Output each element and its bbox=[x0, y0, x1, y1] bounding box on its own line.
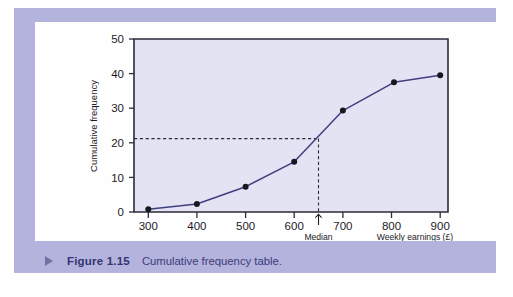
x-axis-tick-labels: 300 400 500 600 700 800 900 bbox=[139, 220, 450, 232]
triangle-right-icon bbox=[45, 256, 53, 266]
plot-area-background bbox=[134, 39, 448, 212]
data-point bbox=[243, 184, 249, 190]
x-tick-label: 700 bbox=[333, 220, 352, 232]
data-point bbox=[145, 206, 151, 212]
data-point bbox=[391, 79, 397, 85]
data-point bbox=[291, 159, 297, 165]
x-tick-label: 300 bbox=[139, 220, 158, 232]
y-tick-label: 50 bbox=[111, 33, 124, 45]
figure-caption-text: Cumulative frequency table. bbox=[142, 255, 282, 267]
x-axis-ticks bbox=[148, 212, 440, 218]
median-arrow-icon bbox=[315, 214, 321, 225]
y-tick-label: 10 bbox=[111, 172, 124, 184]
figure-frame: 0 10 20 30 40 50 Cumulative frequency bbox=[14, 8, 496, 273]
cumulative-frequency-chart: 0 10 20 30 40 50 Cumulative frequency bbox=[35, 22, 503, 241]
y-axis-title: Cumulative frequency bbox=[88, 80, 99, 172]
x-tick-label: 600 bbox=[285, 220, 304, 232]
y-tick-label: 30 bbox=[111, 102, 124, 114]
chart-card: 0 10 20 30 40 50 Cumulative frequency bbox=[35, 22, 503, 241]
y-tick-label: 0 bbox=[118, 206, 124, 218]
data-point bbox=[194, 201, 200, 207]
median-label: Median bbox=[304, 232, 332, 241]
y-tick-label: 40 bbox=[111, 68, 124, 80]
x-tick-label: 800 bbox=[382, 220, 401, 232]
y-axis-tick-labels: 0 10 20 30 40 50 bbox=[111, 33, 124, 218]
figure-number-label: Figure 1.15 bbox=[67, 255, 130, 267]
y-tick-label: 20 bbox=[111, 137, 124, 149]
data-point bbox=[340, 108, 346, 114]
figure-caption: Figure 1.15 Cumulative frequency table. bbox=[35, 241, 503, 281]
data-point bbox=[437, 72, 443, 78]
x-tick-label: 500 bbox=[236, 220, 255, 232]
x-tick-label: 900 bbox=[431, 220, 450, 232]
x-tick-label: 400 bbox=[187, 220, 206, 232]
x-axis-title: Weekly earnings (£) bbox=[377, 232, 453, 241]
